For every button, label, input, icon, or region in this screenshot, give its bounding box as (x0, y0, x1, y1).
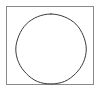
figure-canvas: A thin dark circle drawn inside a light … (0, 0, 101, 92)
rectangle-frame (7, 7, 94, 85)
inscribed-circle (16, 14, 86, 84)
figure-svg (0, 0, 101, 92)
